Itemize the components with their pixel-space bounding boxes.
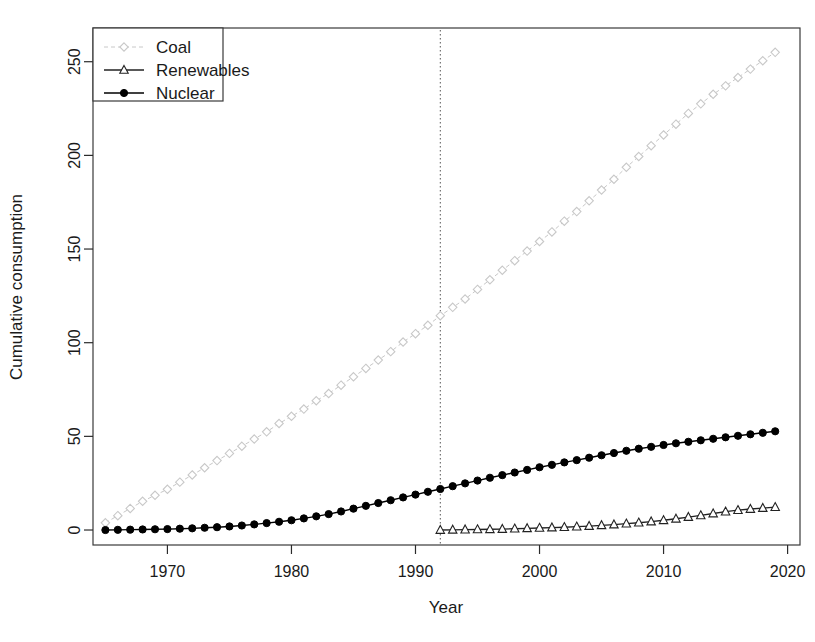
data-point-marker bbox=[238, 522, 245, 529]
data-point-marker bbox=[535, 237, 543, 245]
plot-area bbox=[93, 28, 800, 545]
data-point-marker bbox=[226, 523, 233, 530]
data-point-marker bbox=[288, 517, 295, 524]
data-point-marker bbox=[374, 356, 382, 364]
data-point-marker bbox=[138, 497, 146, 505]
data-point-marker bbox=[722, 434, 729, 441]
data-point-marker bbox=[449, 483, 456, 490]
y-axis-ticks: 050100150200250 bbox=[67, 48, 94, 534]
data-point-marker bbox=[536, 464, 543, 471]
y-tick-label: 100 bbox=[67, 329, 84, 356]
data-point-marker bbox=[362, 364, 370, 372]
data-point-marker bbox=[200, 464, 208, 472]
data-point-marker bbox=[387, 497, 394, 504]
data-point-marker bbox=[610, 449, 617, 456]
data-point-marker bbox=[362, 502, 369, 509]
data-point-marker bbox=[189, 525, 196, 532]
data-point-marker bbox=[275, 518, 282, 525]
data-point-marker bbox=[721, 82, 729, 90]
data-point-marker bbox=[648, 443, 655, 450]
data-point-marker bbox=[188, 471, 196, 479]
data-point-marker bbox=[449, 303, 457, 311]
legend-entries: CoalRenewablesNuclear bbox=[104, 38, 250, 103]
data-point-marker bbox=[424, 321, 432, 329]
data-point-marker bbox=[250, 435, 258, 443]
data-point-marker bbox=[120, 89, 127, 96]
data-point-marker bbox=[474, 477, 481, 484]
data-point-marker bbox=[350, 505, 357, 512]
data-point-marker bbox=[399, 338, 407, 346]
legend-label: Nuclear bbox=[156, 84, 215, 103]
data-point-marker bbox=[709, 90, 717, 98]
data-point-marker bbox=[424, 488, 431, 495]
data-point-marker bbox=[176, 478, 184, 486]
data-point-marker bbox=[771, 48, 779, 56]
y-axis-title: Cumulative consumption bbox=[7, 194, 26, 380]
legend: CoalRenewablesNuclear bbox=[93, 28, 250, 103]
y-tick-label: 250 bbox=[67, 48, 84, 75]
data-point-marker bbox=[176, 525, 183, 532]
data-point-marker bbox=[151, 526, 158, 533]
data-point-marker bbox=[747, 431, 754, 438]
series-renewables bbox=[436, 503, 779, 534]
x-tick-label: 1990 bbox=[398, 563, 434, 580]
data-point-marker bbox=[139, 526, 146, 533]
data-point-marker bbox=[759, 429, 766, 436]
y-tick-label: 0 bbox=[67, 525, 84, 534]
cumulative-consumption-line-chart: 197019801990200020102020 050100150200250… bbox=[0, 0, 815, 642]
data-point-marker bbox=[548, 228, 556, 236]
data-point-marker bbox=[660, 441, 667, 448]
data-point-marker bbox=[524, 466, 531, 473]
data-point-marker bbox=[734, 73, 742, 81]
data-point-marker bbox=[102, 526, 109, 533]
y-tick-label: 50 bbox=[67, 427, 84, 445]
data-point-marker bbox=[511, 469, 518, 476]
data-point-marker bbox=[436, 312, 444, 320]
data-point-marker bbox=[622, 163, 630, 171]
data-point-marker bbox=[251, 521, 258, 528]
data-point-marker bbox=[511, 256, 519, 264]
chart-page: 197019801990200020102020 050100150200250… bbox=[0, 0, 815, 642]
data-point-marker bbox=[101, 519, 109, 527]
x-axis-ticks: 197019801990200020102020 bbox=[150, 545, 806, 580]
data-point-marker bbox=[561, 459, 568, 466]
data-point-marker bbox=[300, 405, 308, 413]
data-point-marker bbox=[337, 508, 344, 515]
data-point-marker bbox=[164, 525, 171, 532]
data-point-marker bbox=[126, 504, 134, 512]
data-point-marker bbox=[127, 526, 134, 533]
data-point-marker bbox=[437, 485, 444, 492]
data-point-marker bbox=[585, 197, 593, 205]
data-point-marker bbox=[746, 65, 754, 73]
data-point-marker bbox=[275, 419, 283, 427]
data-point-marker bbox=[461, 295, 469, 303]
data-point-marker bbox=[411, 329, 419, 337]
data-point-marker bbox=[386, 347, 394, 355]
data-point-marker bbox=[399, 494, 406, 501]
data-point-marker bbox=[772, 428, 779, 435]
data-point-marker bbox=[486, 276, 494, 284]
data-point-marker bbox=[734, 432, 741, 439]
data-point-marker bbox=[697, 100, 705, 108]
data-point-marker bbox=[548, 461, 555, 468]
data-point-marker bbox=[499, 472, 506, 479]
data-point-marker bbox=[349, 373, 357, 381]
x-tick-label: 2020 bbox=[770, 563, 806, 580]
data-point-marker bbox=[659, 131, 667, 139]
y-tick-label: 150 bbox=[67, 236, 84, 263]
data-point-marker bbox=[213, 456, 221, 464]
data-point-marker bbox=[486, 474, 493, 481]
legend-label: Coal bbox=[156, 38, 191, 57]
data-point-marker bbox=[375, 499, 382, 506]
data-point-marker bbox=[759, 57, 767, 65]
x-axis-title: Year bbox=[429, 598, 464, 617]
x-tick-label: 1970 bbox=[150, 563, 186, 580]
data-point-marker bbox=[312, 397, 320, 405]
data-point-marker bbox=[262, 428, 270, 436]
data-point-marker bbox=[598, 452, 605, 459]
data-point-marker bbox=[697, 437, 704, 444]
plot-frame bbox=[93, 28, 800, 545]
data-point-marker bbox=[151, 491, 159, 499]
data-point-marker bbox=[238, 442, 246, 450]
y-tick-label: 200 bbox=[67, 142, 84, 169]
